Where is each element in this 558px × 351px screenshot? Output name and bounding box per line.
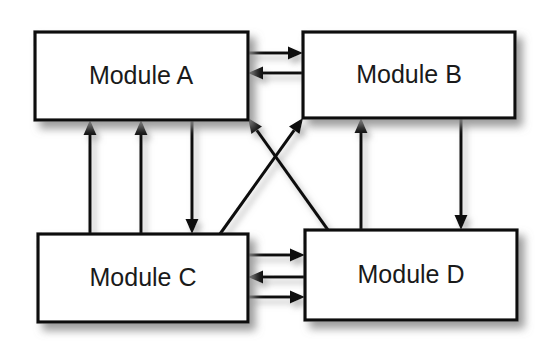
edge-line bbox=[257, 130, 328, 230]
arrowhead-icon bbox=[290, 291, 305, 304]
arrowhead-icon bbox=[290, 249, 305, 262]
arrowhead-icon bbox=[288, 47, 303, 60]
edge-module-d-to-module-a bbox=[248, 118, 328, 230]
module-d-label: Module D bbox=[358, 260, 465, 288]
node-module-d[interactable]: Module D bbox=[305, 230, 517, 320]
module-diagram: Module AModule BModule CModule D bbox=[0, 0, 558, 351]
edge-line bbox=[220, 130, 294, 234]
arrowhead-icon bbox=[135, 120, 148, 135]
edge-module-c-to-module-a bbox=[84, 120, 97, 234]
edge-module-a-to-module-b bbox=[248, 47, 303, 60]
edge-module-a-to-module-c bbox=[186, 120, 199, 234]
arrowhead-icon bbox=[248, 67, 263, 80]
edge-module-b-to-module-a bbox=[248, 67, 303, 80]
node-module-c[interactable]: Module C bbox=[38, 234, 248, 322]
diagram-canvas: Module AModule BModule CModule D bbox=[0, 0, 558, 351]
arrowhead-icon bbox=[186, 219, 199, 234]
edge-module-c-to-module-a bbox=[135, 120, 148, 234]
module-c-label: Module C bbox=[90, 263, 197, 291]
edge-module-c-to-module-d bbox=[248, 249, 305, 262]
module-a-label: Module A bbox=[89, 61, 194, 89]
module-b-label: Module B bbox=[356, 60, 462, 88]
arrowhead-icon bbox=[455, 215, 468, 230]
edge-module-d-to-module-b bbox=[355, 118, 368, 230]
node-module-a[interactable]: Module A bbox=[35, 32, 248, 120]
edge-module-b-to-module-d bbox=[455, 118, 468, 230]
arrowhead-icon bbox=[248, 118, 262, 134]
arrowhead-icon bbox=[289, 118, 303, 134]
arrowhead-icon bbox=[84, 120, 97, 135]
node-module-b[interactable]: Module B bbox=[303, 32, 515, 118]
edge-module-c-to-module-d bbox=[248, 291, 305, 304]
edge-module-d-to-module-c bbox=[248, 271, 305, 284]
arrowhead-icon bbox=[355, 118, 368, 133]
arrowhead-icon bbox=[248, 271, 263, 284]
